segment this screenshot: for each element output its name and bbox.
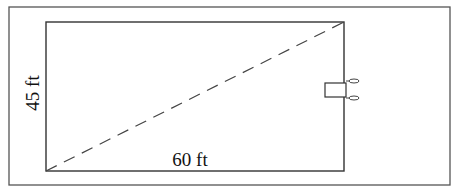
mower-wheel-bottom bbox=[349, 96, 359, 100]
outer-frame bbox=[9, 7, 450, 185]
height-label: 45 ft bbox=[22, 75, 43, 111]
mower-icon bbox=[325, 79, 359, 100]
mower-body bbox=[325, 83, 346, 97]
mower-wheel-top bbox=[349, 79, 359, 83]
diagram-canvas: 45 ft 60 ft bbox=[0, 0, 453, 189]
width-label: 60 ft bbox=[172, 149, 208, 170]
